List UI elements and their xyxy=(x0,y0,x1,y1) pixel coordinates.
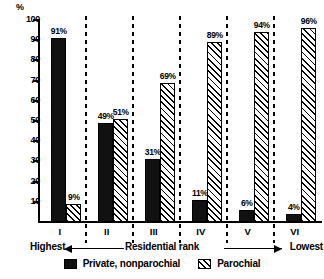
legend-item: Private, nonparochial xyxy=(64,258,181,269)
bar-group-bars: 4%96% xyxy=(275,20,322,222)
axis-end-lowest-label: Lowest xyxy=(290,241,323,252)
x-axis-tick-label: IV xyxy=(196,226,205,237)
arrow-right-icon xyxy=(274,245,282,253)
x-axis-tick-label: II xyxy=(104,226,109,237)
bar-chart: % 100908070605040302010 91%9%49%51%31%69… xyxy=(0,0,324,279)
bar xyxy=(301,28,316,222)
bar-value-label: 31% xyxy=(145,147,161,157)
y-axis-tick-mark xyxy=(33,39,40,41)
legend-swatch xyxy=(198,259,211,269)
bar-group: 49%51% xyxy=(87,20,134,222)
legend-label: Parochial xyxy=(217,258,260,269)
bar xyxy=(145,159,160,222)
bar xyxy=(160,83,175,222)
bar-value-label: 6% xyxy=(241,198,253,208)
x-axis-tick-label: III xyxy=(150,226,158,237)
y-axis-tick-mark xyxy=(33,19,40,21)
bar-value-label: 11% xyxy=(192,188,208,198)
bar-value-label: 51% xyxy=(113,107,129,117)
legend-swatch xyxy=(64,259,77,269)
x-axis-tick-label: I xyxy=(58,226,61,237)
x-axis-title: Residential rank xyxy=(125,241,199,252)
bar xyxy=(286,214,301,222)
bar-value-label: 94% xyxy=(254,20,270,30)
bar-group: 11%89% xyxy=(181,20,228,222)
bar xyxy=(51,38,66,222)
bar-value-label: 49% xyxy=(98,111,114,121)
bar-group-bars: 31%69% xyxy=(134,20,181,222)
legend-item: Parochial xyxy=(198,258,260,269)
bar-group: 31%69% xyxy=(134,20,181,222)
bar-value-label: 69% xyxy=(160,71,176,81)
y-axis-tick-mark xyxy=(33,140,40,142)
bar xyxy=(192,200,207,222)
x-axis-title-row: Highest Residential rank Lowest xyxy=(0,241,324,257)
bar xyxy=(113,119,128,222)
chart-legend: Private, nonparochialParochial xyxy=(0,258,324,269)
y-axis-tick-mark xyxy=(33,201,40,203)
plot-area: 91%9%49%51%31%69%11%89%6%94%4%96% xyxy=(40,20,322,222)
bar-value-label: 9% xyxy=(68,192,80,202)
bar-value-label: 91% xyxy=(51,26,67,36)
y-axis-tick-mark xyxy=(33,80,40,82)
bar-group: 6%94% xyxy=(228,20,275,222)
axis-end-highest-label: Highest xyxy=(30,241,65,252)
y-axis-tick-mark xyxy=(33,120,40,122)
bar xyxy=(239,210,254,222)
bar xyxy=(66,204,81,222)
bar-group-bars: 49%51% xyxy=(87,20,134,222)
bar-value-label: 96% xyxy=(301,16,317,26)
bar-group-bars: 6%94% xyxy=(228,20,275,222)
bar-group-bars: 11%89% xyxy=(181,20,228,222)
y-axis-tick-mark xyxy=(33,181,40,183)
x-axis-tick-label: V xyxy=(245,226,251,237)
bar-value-label: 89% xyxy=(207,30,223,40)
y-axis-unit-label: % xyxy=(16,2,24,12)
legend-label: Private, nonparochial xyxy=(83,258,181,269)
y-axis-tick-mark xyxy=(33,100,40,102)
arrow-left-line xyxy=(71,248,124,249)
bar xyxy=(254,32,269,222)
bar xyxy=(98,123,113,222)
bar-value-label: 4% xyxy=(288,202,300,212)
bar-group: 91%9% xyxy=(40,20,87,222)
y-axis-tick-mark xyxy=(33,59,40,61)
bar xyxy=(207,42,222,222)
bar-group-bars: 91%9% xyxy=(40,20,87,222)
x-axis-tick-label: VI xyxy=(290,226,299,237)
bar-group: 4%96% xyxy=(275,20,322,222)
y-axis-tick-mark xyxy=(33,160,40,162)
